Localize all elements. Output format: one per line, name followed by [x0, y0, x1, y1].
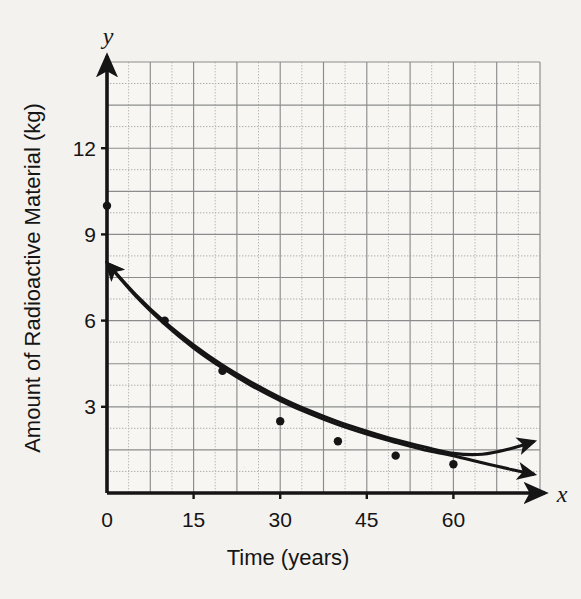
- x-tick-label-0: 0: [101, 508, 113, 531]
- data-point: [391, 451, 399, 459]
- data-point: [449, 460, 457, 468]
- y-axis-variable-label: y: [101, 23, 114, 49]
- data-point: [161, 316, 169, 324]
- data-point: [334, 437, 342, 445]
- radioactive-decay-chart: 12 9 6 3 0 15 30 45 60 y x Time (years) …: [0, 0, 581, 599]
- x-tick-label-45: 45: [355, 508, 378, 531]
- x-axis-variable-label: x: [556, 481, 568, 507]
- y-tick-label-12: 12: [73, 137, 96, 160]
- y-tick-label-6: 6: [84, 309, 96, 332]
- y-axis-title: Amount of Radioactive Material (kg): [20, 103, 45, 453]
- y-tick-label-9: 9: [84, 223, 96, 246]
- x-tick-label-15: 15: [182, 508, 205, 531]
- data-point: [276, 417, 284, 425]
- x-axis-title: Time (years): [227, 545, 350, 570]
- figure-root: 12 9 6 3 0 15 30 45 60 y x Time (years) …: [0, 0, 581, 599]
- data-point: [103, 201, 111, 209]
- y-tick-label-3: 3: [84, 395, 96, 418]
- x-tick-label-30: 30: [269, 508, 292, 531]
- x-tick-label-60: 60: [442, 508, 465, 531]
- data-point: [218, 367, 226, 375]
